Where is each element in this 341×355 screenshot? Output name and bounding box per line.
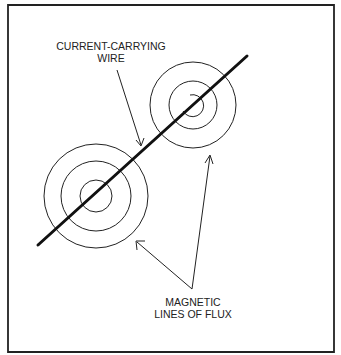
magnetic-field-diagram: CURRENT-CARRYING WIRE MAGNETIC LINES OF …: [0, 0, 341, 355]
wire-label-line1: CURRENT-CARRYING: [56, 40, 165, 52]
wire-pointer-arrow: [117, 70, 144, 146]
flux-arrow-upper: [192, 156, 210, 289]
flux-circle-inner: [80, 180, 112, 212]
current-carrying-wire: [38, 56, 247, 245]
flux-arrow-lower: [137, 242, 192, 289]
wire-label-line2: WIRE: [97, 52, 124, 64]
flux-label-line1: MAGNETIC: [165, 296, 221, 308]
flux-pointer-arrows: [136, 155, 213, 289]
flux-label-line2: LINES OF FLUX: [154, 308, 232, 320]
